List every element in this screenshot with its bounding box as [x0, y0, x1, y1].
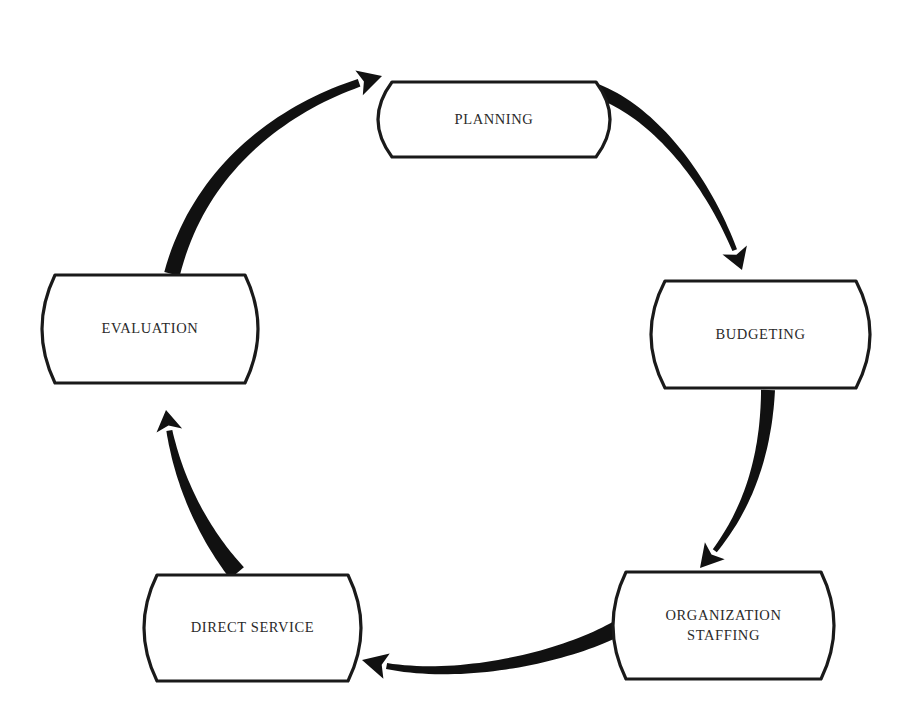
arrowhead-icon	[355, 70, 382, 95]
stage-label: DIRECT SERVICE	[191, 619, 314, 635]
arrow-organization-staffing-to-direct-service	[362, 621, 622, 679]
boxes-layer: PLANNINGBUDGETINGORGANIZATIONSTAFFINGDIR…	[42, 82, 870, 681]
arrow-budgeting-to-organization-staffing	[700, 390, 775, 568]
stage-organization-staffing: ORGANIZATIONSTAFFING	[613, 572, 834, 679]
arrow-evaluation-to-planning	[164, 70, 382, 276]
arrowhead-icon	[362, 653, 390, 678]
stage-label: BUDGETING	[716, 326, 806, 342]
stage-label: EVALUATION	[102, 320, 199, 336]
stage-direct-service: DIRECT SERVICE	[144, 575, 361, 681]
arrow-planning-to-budgeting	[595, 85, 747, 271]
arrowhead-icon	[157, 410, 183, 433]
stage-label: STAFFING	[687, 627, 760, 643]
stage-box-shape	[613, 572, 834, 679]
stage-budgeting: BUDGETING	[651, 281, 870, 388]
arrow-shaft	[386, 621, 622, 674]
stage-planning: PLANNING	[378, 82, 610, 157]
cycle-diagram: PLANNINGBUDGETINGORGANIZATIONSTAFFINGDIR…	[0, 0, 907, 727]
arrow-shaft	[595, 85, 738, 252]
arrow-shaft	[164, 79, 360, 276]
arrow-shaft	[166, 430, 244, 579]
arrow-shaft	[713, 390, 775, 552]
stage-label: ORGANIZATION	[666, 607, 782, 623]
stage-evaluation: EVALUATION	[42, 275, 258, 383]
arrow-direct-service-to-evaluation	[157, 410, 244, 579]
stage-label: PLANNING	[455, 111, 534, 127]
